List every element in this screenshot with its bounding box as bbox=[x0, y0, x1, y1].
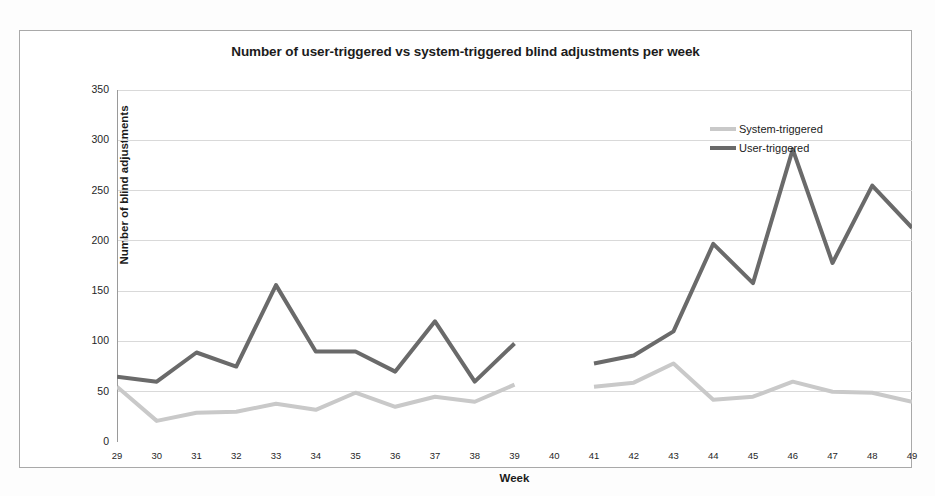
series-line-system-triggered bbox=[594, 364, 912, 402]
x-tick-label: 37 bbox=[420, 450, 450, 461]
x-tick-label: 33 bbox=[261, 450, 291, 461]
x-tick-label: 42 bbox=[619, 450, 649, 461]
x-tick-label: 30 bbox=[142, 450, 172, 461]
x-axis-title: Week bbox=[117, 472, 912, 484]
legend-item-system-triggered: System-triggered bbox=[710, 119, 823, 138]
x-tick-label: 40 bbox=[539, 450, 569, 461]
x-tick-label: 38 bbox=[460, 450, 490, 461]
x-tick-label: 46 bbox=[778, 450, 808, 461]
y-tick-label: 200 bbox=[69, 234, 109, 246]
legend-line-icon-user-triggered bbox=[710, 146, 736, 150]
y-tick-label: 350 bbox=[69, 83, 109, 95]
y-tick-label: 100 bbox=[69, 334, 109, 346]
series-lines bbox=[117, 149, 912, 421]
x-tick-label: 36 bbox=[380, 450, 410, 461]
x-tick-label: 29 bbox=[102, 450, 132, 461]
x-tick-label: 44 bbox=[698, 450, 728, 461]
y-tick-label: 150 bbox=[69, 284, 109, 296]
y-tick-label: 250 bbox=[69, 184, 109, 196]
chart-frame: Number of user-triggered vs system-trigg… bbox=[19, 30, 912, 468]
x-tick-label: 39 bbox=[500, 450, 530, 461]
x-tick-label: 47 bbox=[818, 450, 848, 461]
series-line-user-triggered bbox=[117, 285, 515, 382]
x-tick-label: 49 bbox=[897, 450, 927, 461]
chart-legend: System-triggered User-triggered bbox=[710, 119, 823, 157]
legend-line-icon-system-triggered bbox=[710, 127, 736, 131]
chart-title: Number of user-triggered vs system-trigg… bbox=[20, 44, 911, 59]
x-tick-label: 32 bbox=[221, 450, 251, 461]
page-root: Number of user-triggered vs system-trigg… bbox=[0, 0, 935, 496]
y-tick-label: 0 bbox=[69, 435, 109, 447]
x-tick-label: 45 bbox=[738, 450, 768, 461]
y-tick-label: 300 bbox=[69, 133, 109, 145]
legend-label-user-triggered: User-triggered bbox=[739, 142, 809, 154]
series-line-user-triggered bbox=[594, 149, 912, 363]
legend-item-user-triggered: User-triggered bbox=[710, 138, 823, 157]
legend-label-system-triggered: System-triggered bbox=[739, 123, 823, 135]
y-tick-label: 50 bbox=[69, 385, 109, 397]
x-tick-label: 48 bbox=[857, 450, 887, 461]
x-tick-label: 41 bbox=[579, 450, 609, 461]
series-line-system-triggered bbox=[117, 385, 515, 421]
x-tick-label: 31 bbox=[182, 450, 212, 461]
x-tick-label: 35 bbox=[341, 450, 371, 461]
x-tick-label: 43 bbox=[659, 450, 689, 461]
x-tick-label: 34 bbox=[301, 450, 331, 461]
